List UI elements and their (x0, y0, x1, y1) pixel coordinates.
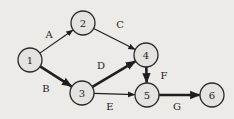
node-label: 4 (143, 50, 149, 61)
edge-label-e: E (106, 101, 113, 112)
edge-c (94, 28, 135, 49)
edge-label-c: C (116, 19, 124, 30)
node-5: 5 (135, 83, 159, 107)
edge-label-d: D (97, 60, 105, 71)
node-label: 3 (79, 88, 85, 99)
edge-label-a: A (44, 29, 53, 40)
edge-label-b: B (42, 83, 49, 94)
network-diagram: ABCDEFG 123456 (0, 0, 234, 119)
node-3: 3 (70, 81, 94, 105)
node-label: 1 (27, 55, 33, 66)
diagram-canvas: ABCDEFG 123456 (0, 0, 234, 119)
edge-e (94, 93, 135, 94)
edges-layer (40, 28, 200, 95)
node-6: 6 (200, 83, 224, 107)
node-label: 5 (144, 90, 150, 101)
node-2: 2 (71, 11, 95, 35)
node-1: 1 (18, 48, 42, 72)
node-4: 4 (134, 43, 158, 67)
node-label: 2 (80, 18, 86, 29)
edge-labels-layer: ABCDEFG (42, 19, 181, 112)
edge-label-g: G (173, 101, 181, 112)
node-label: 6 (209, 90, 215, 101)
edge-label-f: F (161, 70, 168, 81)
